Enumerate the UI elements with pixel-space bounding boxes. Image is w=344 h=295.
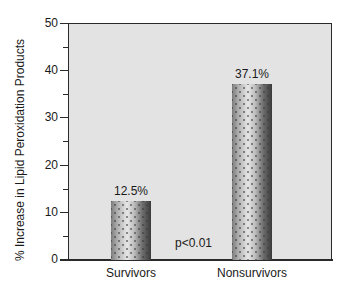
bar-chart: 0 10 20 30 40 50 % Increase in Lipid Per… [0, 0, 344, 295]
y-minor-tick-25 [63, 141, 68, 142]
y-minor-tick-5 [63, 236, 68, 237]
bar-nonsurvivors [232, 84, 272, 260]
x-category-label-nonsurvivors: Nonsurvivors [197, 266, 307, 280]
y-tick-label-50: 50 [18, 17, 58, 29]
y-tick-0 [60, 259, 68, 260]
y-tick-40 [60, 70, 68, 71]
y-minor-tick-15 [63, 189, 68, 190]
plot-area [68, 23, 332, 260]
y-tick-50 [60, 23, 68, 24]
y-minor-tick-45 [63, 47, 68, 48]
y-minor-tick-35 [63, 94, 68, 95]
y-tick-10 [60, 212, 68, 213]
bar-value-label-survivors: 12.5% [101, 184, 161, 198]
y-tick-30 [60, 117, 68, 118]
p-value-annotation: p<0.01 [175, 236, 212, 250]
y-axis-label: % Increase in Lipid Peroxidation Product… [13, 30, 27, 270]
bar-survivors [111, 201, 151, 260]
x-category-label-survivors: Survivors [76, 266, 186, 280]
y-tick-20 [60, 165, 68, 166]
bar-value-label-nonsurvivors: 37.1% [222, 67, 282, 81]
x-axis-line [60, 259, 333, 261]
